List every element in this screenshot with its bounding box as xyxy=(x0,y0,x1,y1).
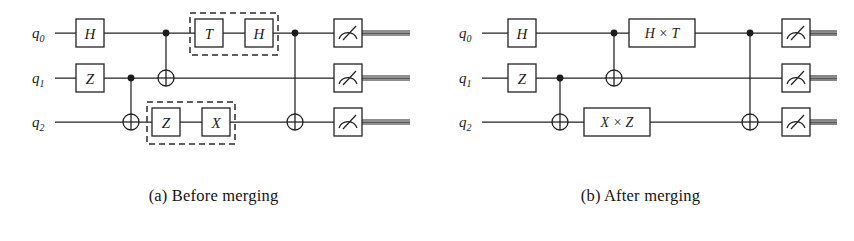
measure-q1[interactable] xyxy=(334,64,362,92)
pauli-z-gate[interactable]: Z xyxy=(76,64,104,92)
qubit-label-q1: q1 xyxy=(32,70,45,89)
qubit-label-q2: q2 xyxy=(32,114,45,133)
qubit-label-q2: q2 xyxy=(459,114,472,133)
cnot-q0-q2 xyxy=(287,30,303,130)
qubit-label-subscript-2: 2 xyxy=(467,122,472,133)
pauli-z-gate[interactable]: Z xyxy=(508,64,536,92)
measure-q1[interactable] xyxy=(782,64,810,92)
caption-panel-b: (b) After merging xyxy=(427,186,854,206)
circuit-panel-b: q0q1q2HZH × TX × Z (b) After merging xyxy=(427,0,854,241)
t-gate[interactable]: T xyxy=(195,19,223,47)
measure-q0[interactable] xyxy=(334,19,362,47)
circuit-panel-a: q0q1q2HZTHZX (a) Before merging xyxy=(0,0,427,241)
qubit-label-q0: q0 xyxy=(32,25,45,44)
qubit-label-subscript-1: 1 xyxy=(467,78,472,89)
qubit-label-q0: q0 xyxy=(459,25,472,44)
measure-q0[interactable] xyxy=(782,19,810,47)
caption-panel-a: (a) Before merging xyxy=(0,186,427,206)
qubit-label-subscript-0: 0 xyxy=(467,33,472,44)
cnot-q0-q2 xyxy=(742,30,758,130)
cnot-q1-q2-control-dot xyxy=(128,75,135,82)
measure-q2[interactable] xyxy=(782,108,810,136)
merged-gate-h-times-t-label: H × T xyxy=(644,26,681,41)
cnot-q0-q2-control-dot xyxy=(292,30,299,37)
cnot-q0-q1-control-dot xyxy=(163,30,170,37)
merged-gate-x-times-z[interactable]: X × Z xyxy=(584,108,650,136)
qubit-label-subscript-1: 1 xyxy=(40,78,45,89)
quantum-circuit-before-merging: q0q1q2HZTHZX xyxy=(0,0,427,185)
qubit-label-q1: q1 xyxy=(459,70,472,89)
hadamard-gate-label: H xyxy=(84,26,97,42)
cnot-q1-q2-control-dot xyxy=(557,75,564,82)
pauli-z-gate-label: Z xyxy=(86,71,95,87)
hadamard-gate-2-label: H xyxy=(253,26,266,42)
cnot-q0-q2-control-dot xyxy=(747,30,754,37)
pauli-x-gate[interactable]: X xyxy=(202,108,230,136)
hadamard-gate-label: H xyxy=(516,26,529,42)
pauli-z-gate-2-label: Z xyxy=(162,115,171,131)
merged-gate-x-times-z-label: X × Z xyxy=(600,115,634,130)
quantum-circuit-after-merging: q0q1q2HZH × TX × Z xyxy=(427,0,854,185)
pauli-z-gate-label: Z xyxy=(518,71,527,87)
cnot-q0-q1 xyxy=(606,30,622,86)
merged-gate-h-times-t[interactable]: H × T xyxy=(629,19,695,47)
figure-container: q0q1q2HZTHZX (a) Before merging q0q1q2HZ… xyxy=(0,0,854,241)
hadamard-gate-2[interactable]: H xyxy=(245,19,273,47)
hadamard-gate[interactable]: H xyxy=(76,19,104,47)
cnot-q0-q1-control-dot xyxy=(611,30,618,37)
cnot-q1-q2 xyxy=(123,75,139,130)
qubit-label-subscript-2: 2 xyxy=(40,122,45,133)
qubit-label-subscript-0: 0 xyxy=(40,33,45,44)
pauli-z-gate-2[interactable]: Z xyxy=(152,108,180,136)
cnot-q0-q1 xyxy=(158,30,174,86)
pauli-x-gate-label: X xyxy=(210,115,221,131)
measure-q2[interactable] xyxy=(334,108,362,136)
hadamard-gate[interactable]: H xyxy=(508,19,536,47)
cnot-q1-q2 xyxy=(552,75,568,130)
